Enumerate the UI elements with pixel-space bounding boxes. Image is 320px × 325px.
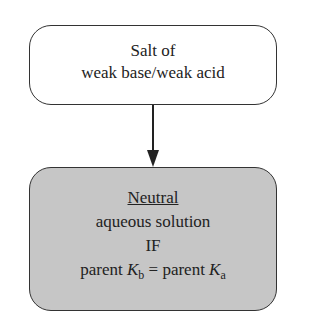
neutral-title: Neutral bbox=[30, 186, 276, 210]
if-label: IF bbox=[30, 234, 276, 258]
equilibrium-condition: parent Kb = parent Ka bbox=[30, 258, 276, 287]
neutral-solution-box: Neutral aqueous solution IF parent Kb = … bbox=[29, 167, 277, 311]
aqueous-solution-label: aqueous solution bbox=[30, 210, 276, 234]
